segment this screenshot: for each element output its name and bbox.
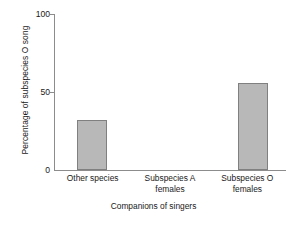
bar-subspecies-o-females <box>238 83 268 170</box>
bar-other-species <box>77 120 107 170</box>
y-tick-group-0: 0 <box>28 166 50 175</box>
x-axis-category-labels: Other species Subspecies A females Subsp… <box>54 173 286 199</box>
plot-area <box>54 14 285 170</box>
y-tick-label-50: 50 <box>28 88 50 97</box>
x-category-other-species: Other species <box>54 173 131 199</box>
x-axis-line <box>54 170 286 171</box>
bar-chart-figure: Percentage of subspecies O song 100 50 0… <box>0 0 307 227</box>
x-category-subspecies-o-females-line2: females <box>209 184 286 195</box>
y-tick-group-50: 50 <box>28 88 50 97</box>
x-category-subspecies-o-females-line1: Subspecies O <box>221 173 273 183</box>
x-category-other-species-line1: Other species <box>67 173 119 183</box>
x-axis-title: Companions of singers <box>0 201 307 211</box>
y-tick-label-0: 0 <box>28 166 50 175</box>
x-category-subspecies-o-females: Subspecies O females <box>209 173 286 199</box>
x-category-subspecies-a-females-line1: Subspecies A <box>145 173 196 183</box>
y-tick-group-100: 100 <box>28 10 50 19</box>
x-category-subspecies-a-females: Subspecies A females <box>131 173 208 199</box>
y-tick-label-100: 100 <box>28 10 50 19</box>
x-category-subspecies-a-females-line2: females <box>131 184 208 195</box>
